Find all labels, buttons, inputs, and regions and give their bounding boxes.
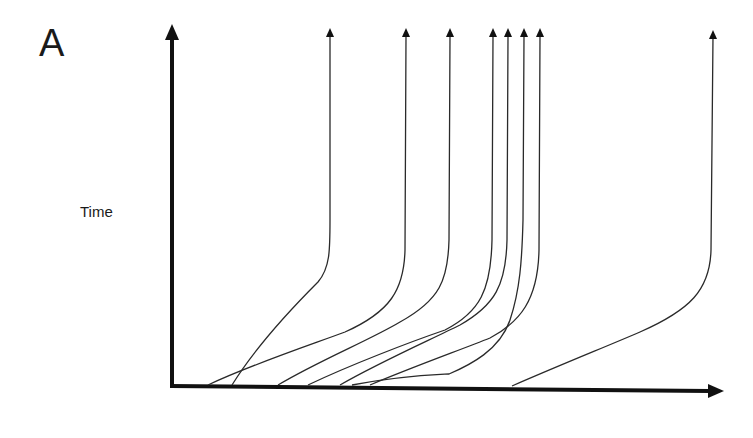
x-axis	[170, 384, 724, 398]
x-axis-arrow-icon	[708, 384, 724, 398]
trajectory-1	[232, 36, 330, 385]
trajectory-5	[340, 36, 508, 385]
arrow-up-icon	[709, 30, 717, 39]
trajectory-4	[308, 36, 493, 385]
arrow-up-icon	[536, 28, 544, 37]
y-axis-arrow-icon	[165, 24, 179, 40]
trajectory-8	[512, 36, 713, 386]
arrow-up-icon	[402, 28, 410, 37]
arrow-up-icon	[504, 28, 512, 37]
trajectory-arrowheads	[326, 28, 717, 39]
trajectory-2	[208, 36, 406, 385]
arrow-up-icon	[520, 28, 528, 37]
y-axis	[165, 24, 179, 388]
trajectory-7	[370, 36, 540, 385]
arrow-up-icon	[489, 28, 497, 37]
trajectory-3	[278, 36, 450, 385]
trajectory-diagram	[0, 0, 753, 438]
arrow-up-icon	[446, 28, 454, 37]
trajectories	[208, 36, 713, 386]
arrow-up-icon	[326, 28, 334, 37]
